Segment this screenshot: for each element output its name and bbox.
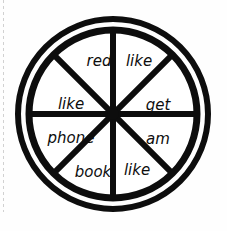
segment-label-get: get	[146, 96, 172, 114]
worksheet-canvas: red like get am like book phone like	[0, 0, 227, 231]
segment-label-am: am	[146, 130, 170, 148]
word-wheel-figure: red like get am like book phone like	[0, 0, 227, 231]
segment-label-book: book	[75, 163, 113, 181]
segment-label-red: red	[87, 52, 112, 70]
hub-dot	[107, 108, 119, 120]
segment-label-like-bottom: like	[124, 161, 150, 179]
segment-label-like-top: like	[126, 52, 152, 70]
segment-label-like-left: like	[58, 95, 84, 113]
segment-label-phone: phone	[47, 129, 95, 147]
